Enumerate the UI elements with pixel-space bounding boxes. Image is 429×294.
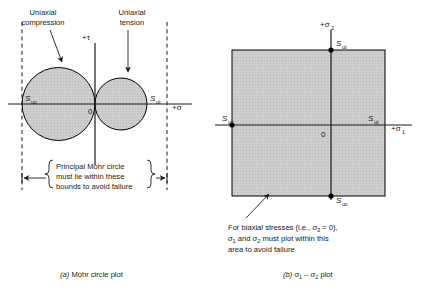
tau-axis-label: +τ	[82, 33, 91, 42]
suc-bottom-label: S uc	[336, 196, 348, 207]
sigma2-axis-label: +σ 2	[320, 20, 334, 31]
panel-a-caption: (a) Mohr circle plot	[60, 270, 124, 279]
svg-text:+σ: +σ	[391, 124, 401, 133]
panel-b-caption-text: (b) σ1 – σ2 plot	[283, 270, 334, 280]
svg-text:+σ: +σ	[320, 20, 330, 29]
sut-top-label: S ut	[336, 39, 347, 50]
origin-label-a: 0	[88, 107, 93, 116]
vertex-dot-suc-sigma2	[328, 193, 333, 198]
svg-text:ut: ut	[342, 44, 347, 50]
biaxial-note-arrow	[246, 194, 269, 218]
biaxial-note-line1: For biaxial stresses (i.e., σ3 = 0),	[228, 223, 338, 233]
svg-text:uc: uc	[342, 201, 348, 207]
svg-text:uc: uc	[228, 119, 234, 125]
compression-callout-arrow	[50, 30, 62, 62]
panel-b-caption: (b) σ1 – σ2 plot	[283, 270, 334, 280]
bounds-annotation: Principal Mohr circle must lie within th…	[22, 160, 167, 191]
panel-a-caption-text: (a) Mohr circle plot	[60, 270, 124, 279]
svg-text:tension: tension	[120, 18, 145, 27]
biaxial-note: For biaxial stresses (i.e., σ3 = 0), σ1 …	[228, 194, 338, 254]
biaxial-note-line2: σ1 and σ2 must plot within this	[228, 234, 329, 244]
svg-text:ut: ut	[156, 99, 161, 105]
panel-a-mohr-circle-plot: +τ +σ 0 S uc S ut Uniaxial compression U…	[8, 8, 192, 279]
panel-b-sigma-plot: +σ 2 +σ 1 0 S ut S ut	[215, 20, 412, 280]
sigma-axis-label: +σ	[172, 103, 182, 112]
uniaxial-compression-callout: Uniaxial compression	[21, 8, 64, 62]
biaxial-note-line3: area to avoid failure	[228, 245, 295, 254]
svg-text:2: 2	[331, 25, 334, 31]
figure-container: +τ +σ 0 S uc S ut Uniaxial compression U…	[0, 0, 429, 294]
svg-text:bounds to avoid failure: bounds to avoid failure	[56, 182, 132, 191]
svg-text:Uniaxial: Uniaxial	[29, 8, 56, 17]
vertex-dot-sut-sigma2	[328, 47, 333, 52]
failure-envelope-area	[232, 50, 385, 196]
origin-label-b: 0	[321, 130, 326, 139]
svg-text:must lie within these: must lie within these	[56, 172, 124, 181]
right-curly-brace	[147, 160, 155, 188]
svg-text:ut: ut	[374, 119, 379, 125]
svg-text:uc: uc	[31, 99, 37, 105]
svg-text:Principal Mohr circle: Principal Mohr circle	[56, 162, 124, 171]
mohr-failure-theory-figure: +τ +σ 0 S uc S ut Uniaxial compression U…	[0, 0, 429, 294]
sut-label-a: S ut	[150, 94, 161, 105]
svg-text:compression: compression	[21, 18, 64, 27]
svg-text:Uniaxial: Uniaxial	[118, 8, 145, 17]
uniaxial-tension-callout: Uniaxial tension	[118, 8, 145, 72]
left-curly-brace	[45, 160, 53, 188]
svg-text:1: 1	[402, 129, 405, 135]
